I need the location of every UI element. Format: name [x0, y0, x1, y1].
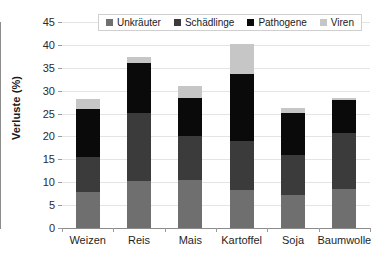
x-tick-mark	[216, 228, 217, 232]
bar-group[interactable]	[230, 22, 254, 228]
bar-group[interactable]	[281, 22, 305, 228]
bar-stack	[281, 108, 305, 228]
bar-group[interactable]	[127, 22, 151, 228]
y-tick-mark	[58, 159, 62, 160]
x-tick-mark	[319, 228, 320, 232]
x-tick-label-mais: Mais	[179, 234, 202, 246]
legend-swatch-icon	[106, 19, 113, 26]
bar-stack	[178, 86, 202, 228]
bar-segment[interactable]	[76, 99, 100, 109]
bar-stack	[332, 98, 356, 228]
gridline	[62, 205, 370, 206]
legend-label: Viren	[331, 18, 354, 28]
chart-legend: UnkräuterSchädlingePathogeneViren	[98, 14, 362, 31]
y-tick-label: 40	[43, 39, 55, 51]
x-tick-mark	[62, 228, 63, 232]
x-tick-label-kartoffel: Kartoffel	[221, 234, 262, 246]
bar-segment[interactable]	[281, 155, 305, 195]
y-tick-label: 5	[49, 199, 55, 211]
y-tick-mark	[58, 68, 62, 69]
bar-group[interactable]	[332, 22, 356, 228]
y-axis-line	[0, 22, 1, 229]
bar-group[interactable]	[76, 22, 100, 228]
x-tick-mark	[165, 228, 166, 232]
bar-stack	[230, 44, 254, 228]
x-tick-mark	[267, 228, 268, 232]
legend-swatch-icon	[247, 19, 254, 26]
bar-group[interactable]	[178, 22, 202, 228]
bar-segment[interactable]	[178, 136, 202, 180]
bar-segment[interactable]	[230, 141, 254, 190]
bar-segment[interactable]	[127, 113, 151, 182]
bar-segment[interactable]	[178, 86, 202, 97]
y-tick-mark	[58, 91, 62, 92]
legend-item[interactable]: Unkräuter	[106, 18, 161, 28]
y-tick-label: 15	[43, 153, 55, 165]
bar-segment[interactable]	[127, 63, 151, 112]
stacked-bar-chart: Verluste (%) 051015202530354045 Unkräute…	[0, 0, 377, 264]
legend-swatch-icon	[320, 19, 327, 26]
y-tick-label: 20	[43, 130, 55, 142]
bar-segment[interactable]	[127, 181, 151, 228]
legend-item[interactable]: Pathogene	[247, 18, 306, 28]
y-tick-mark	[58, 182, 62, 183]
y-tick-label: 35	[43, 62, 55, 74]
legend-item[interactable]: Viren	[320, 18, 354, 28]
bar-segment[interactable]	[76, 109, 100, 157]
x-tick-label-soja: Soja	[282, 234, 304, 246]
y-axis-title: Verluste (%)	[10, 53, 22, 163]
legend-swatch-icon	[174, 19, 181, 26]
y-tick-label: 25	[43, 108, 55, 120]
bar-segment[interactable]	[332, 100, 356, 133]
bar-segment[interactable]	[332, 189, 356, 228]
y-tick-mark	[58, 136, 62, 137]
y-tick-mark	[58, 114, 62, 115]
legend-label: Schädlinge	[185, 18, 234, 28]
x-tick-label-baumwolle: Baumwolle	[317, 234, 371, 246]
y-tick-mark	[58, 205, 62, 206]
x-tick-label-reis: Reis	[128, 234, 150, 246]
legend-label: Unkräuter	[117, 18, 161, 28]
bar-segment[interactable]	[230, 74, 254, 141]
bar-stack	[76, 99, 100, 228]
gridline	[62, 159, 370, 160]
x-tick-label-weizen: Weizen	[69, 234, 105, 246]
y-tick-label: 30	[43, 85, 55, 97]
x-tick-mark	[113, 228, 114, 232]
legend-item[interactable]: Schädlinge	[174, 18, 234, 28]
gridline	[62, 68, 370, 69]
y-tick-mark	[58, 45, 62, 46]
gridline	[62, 182, 370, 183]
bar-segment[interactable]	[281, 113, 305, 155]
bar-stack	[127, 57, 151, 228]
bar-segment[interactable]	[178, 98, 202, 137]
legend-label: Pathogene	[258, 18, 306, 28]
bar-segment[interactable]	[76, 192, 100, 228]
gridline	[62, 91, 370, 92]
x-tick-mark	[370, 228, 371, 232]
y-tick-label: 45	[43, 16, 55, 28]
y-tick-label: 10	[43, 176, 55, 188]
gridline	[62, 45, 370, 46]
gridline	[62, 114, 370, 115]
plot-area: 051015202530354045	[62, 22, 370, 228]
y-tick-mark	[58, 22, 62, 23]
bar-segment[interactable]	[230, 44, 254, 74]
gridline	[62, 136, 370, 137]
bar-segment[interactable]	[230, 190, 254, 228]
y-tick-label: 0	[49, 222, 55, 234]
bar-segment[interactable]	[76, 157, 100, 192]
bar-segment[interactable]	[281, 195, 305, 228]
bar-segment[interactable]	[332, 133, 356, 188]
bar-segment[interactable]	[178, 180, 202, 228]
